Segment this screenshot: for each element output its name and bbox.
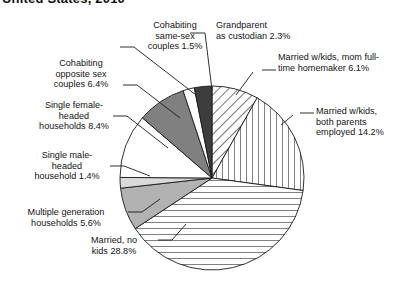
label-mom-homemaker: Married w/kids, mom full- time homemaker…: [278, 52, 396, 73]
label-single-female-headed: Single female- headed households 8.4%: [24, 100, 124, 132]
label-married-no-kids: Married, no kids 28.8%: [70, 235, 158, 256]
label-both-parents-employed: Married w/kids, both parents employed 14…: [316, 106, 399, 138]
label-cohabiting-opposite-sex: Cohabiting opposite sex couples 6.4%: [38, 58, 124, 90]
label-grandparent: Grandparent as custodian 2.3%: [216, 20, 336, 41]
label-multiple-generation: Multiple generation households 5.6%: [4, 207, 128, 228]
label-single-male-headed: Single male- headed household 1.4%: [22, 150, 112, 182]
pie-chart: Cohabiting same-sex couples 1.5% Grandpa…: [0, 0, 399, 282]
label-cohabiting-same-sex: Cohabiting same-sex couples 1.5%: [133, 20, 217, 52]
